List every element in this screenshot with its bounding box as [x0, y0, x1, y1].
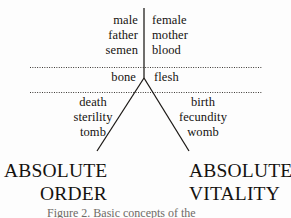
term-birth: birth [143, 95, 263, 110]
pole-heading-left: ABSOLUTE ORDER [4, 159, 107, 205]
pole-left-line1: ABSOLUTE [4, 159, 107, 182]
term-death: death [33, 95, 153, 110]
term-male: male [0, 13, 138, 28]
term-mother: mother [152, 28, 291, 43]
term-group-middle-left: bone [0, 70, 136, 85]
pole-right-line1: ABSOLUTE [189, 159, 289, 182]
term-group-middle-right: flesh [154, 70, 291, 85]
term-group-bottom-left: death sterility tomb [33, 95, 153, 139]
term-bone: bone [0, 70, 136, 85]
term-blood: blood [152, 43, 291, 58]
term-sterility: sterility [33, 110, 153, 125]
term-female: female [152, 13, 291, 28]
term-father: father [0, 28, 138, 43]
term-group-top-left: male father semen [0, 13, 138, 57]
term-group-bottom-right: birth fecundity womb [143, 95, 263, 139]
term-flesh: flesh [154, 70, 291, 85]
term-tomb: tomb [33, 125, 153, 140]
pole-heading-right: ABSOLUTE VITALITY [189, 159, 289, 205]
pole-left-line2: ORDER [4, 182, 107, 205]
figure-caption: Figure 2. Basic concepts of the [0, 206, 291, 218]
term-womb: womb [143, 125, 263, 140]
term-semen: semen [0, 43, 138, 58]
figure-container: male father semen female mother blood bo… [0, 0, 291, 218]
pole-right-line2: VITALITY [189, 182, 289, 205]
term-group-top-right: female mother blood [152, 13, 291, 57]
term-fecundity: fecundity [143, 110, 263, 125]
figure-caption-text: Figure 2. Basic concepts of the [47, 206, 196, 218]
